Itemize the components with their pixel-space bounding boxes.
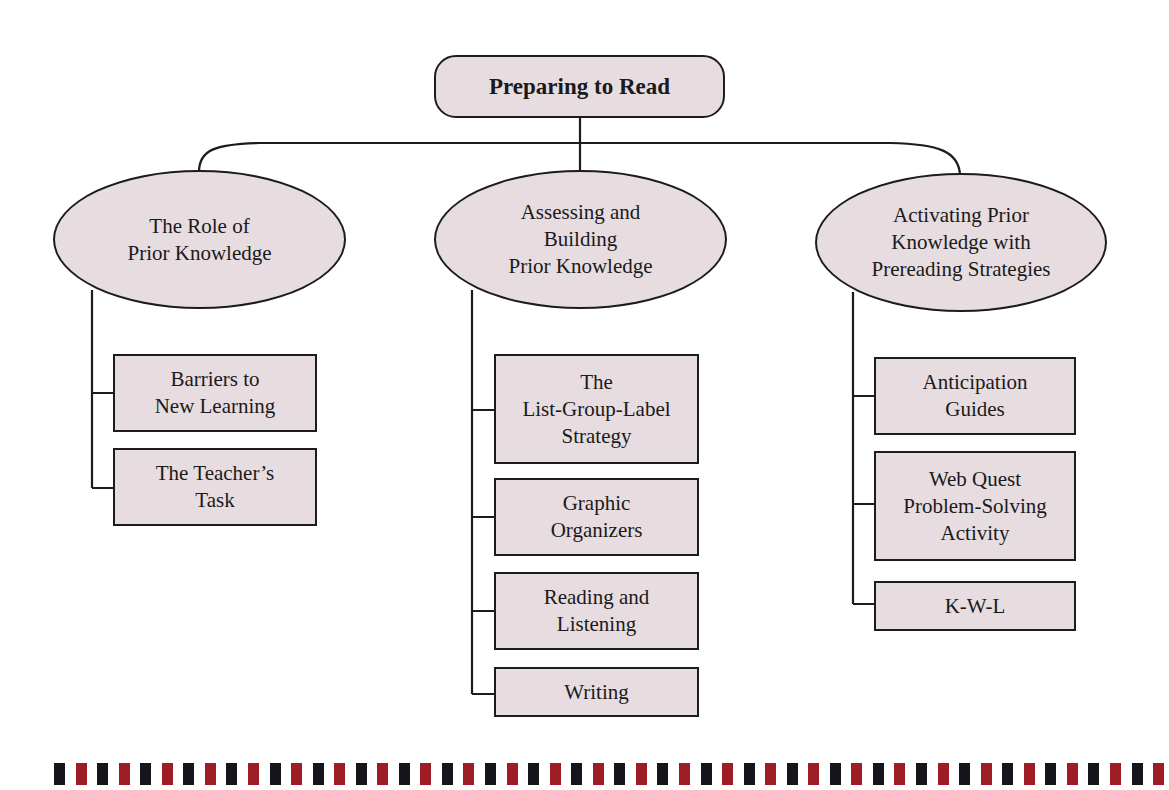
decorative-bar xyxy=(959,763,970,785)
decorative-bar xyxy=(938,763,949,785)
branch-node-assessing-building: Assessing and Building Prior Knowledge xyxy=(434,170,727,309)
decorative-bar xyxy=(226,763,237,785)
decorative-bar xyxy=(1067,763,1078,785)
leaf-barriers-to-new-learning: Barriers to New Learning xyxy=(113,354,317,432)
decorative-bar xyxy=(1088,763,1099,785)
decorative-bar xyxy=(657,763,668,785)
decorative-bar xyxy=(119,763,130,785)
decorative-bar xyxy=(873,763,884,785)
decorative-bar xyxy=(701,763,712,785)
leaf-label: Writing xyxy=(564,679,628,706)
decorative-bar xyxy=(744,763,755,785)
decorative-bar xyxy=(916,763,927,785)
leaf-reading-and-listening: Reading and Listening xyxy=(494,572,699,650)
decorative-bar xyxy=(571,763,582,785)
decorative-bar xyxy=(808,763,819,785)
decorative-bar xyxy=(270,763,281,785)
decorative-bar xyxy=(140,763,151,785)
leaf-label: K-W-L xyxy=(945,593,1006,620)
decorative-bar xyxy=(593,763,604,785)
decorative-bar xyxy=(377,763,388,785)
branch-label: The Role of Prior Knowledge xyxy=(127,213,271,267)
decorative-bar xyxy=(420,763,431,785)
decorative-bar xyxy=(356,763,367,785)
decorative-bar xyxy=(981,763,992,785)
decorative-bar xyxy=(1024,763,1035,785)
root-label: Preparing to Read xyxy=(489,74,670,100)
decorative-bar xyxy=(162,763,173,785)
leaf-web-quest: Web Quest Problem-Solving Activity xyxy=(874,451,1076,561)
branch-label: Assessing and Building Prior Knowledge xyxy=(508,199,652,280)
decorative-bar xyxy=(205,763,216,785)
decorative-bar xyxy=(1110,763,1121,785)
decorative-bar xyxy=(851,763,862,785)
decorative-bar xyxy=(1132,763,1143,785)
decorative-bar xyxy=(97,763,108,785)
decorative-bar xyxy=(183,763,194,785)
decorative-bar xyxy=(830,763,841,785)
decorative-bar xyxy=(679,763,690,785)
leaf-kwl: K-W-L xyxy=(874,581,1076,631)
decorative-bar xyxy=(894,763,905,785)
decorative-bar xyxy=(765,763,776,785)
decorative-bar xyxy=(550,763,561,785)
leaf-anticipation-guides: Anticipation Guides xyxy=(874,357,1076,435)
leaf-label: Web Quest Problem-Solving Activity xyxy=(903,466,1047,547)
decorative-bar xyxy=(248,763,259,785)
decorative-bar xyxy=(1045,763,1056,785)
decorative-bar xyxy=(1002,763,1013,785)
leaf-label: Reading and Listening xyxy=(544,584,650,638)
decorative-bar xyxy=(1153,763,1164,785)
leaf-label: Anticipation Guides xyxy=(923,369,1028,423)
decorative-bar xyxy=(334,763,345,785)
decorative-bar xyxy=(76,763,87,785)
decorative-bar xyxy=(787,763,798,785)
decorative-bar xyxy=(291,763,302,785)
decorative-bar xyxy=(722,763,733,785)
branch-node-activating-prior-knowledge: Activating Prior Knowledge with Prereadi… xyxy=(815,173,1107,312)
leaf-label: The Teacher’s Task xyxy=(156,460,274,514)
leaf-label: The List-Group-Label Strategy xyxy=(522,369,670,450)
root-node-preparing-to-read: Preparing to Read xyxy=(434,55,725,118)
decorative-bar xyxy=(614,763,625,785)
decorative-bar xyxy=(442,763,453,785)
decorative-bar xyxy=(485,763,496,785)
decorative-bar xyxy=(463,763,474,785)
leaf-label: Graphic Organizers xyxy=(551,490,643,544)
decorative-bar xyxy=(636,763,647,785)
branch-label: Activating Prior Knowledge with Prereadi… xyxy=(871,202,1050,283)
branch-node-role-of-prior-knowledge: The Role of Prior Knowledge xyxy=(53,170,346,309)
decorative-bar xyxy=(399,763,410,785)
leaf-writing: Writing xyxy=(494,667,699,717)
decorative-bar xyxy=(528,763,539,785)
leaf-teachers-task: The Teacher’s Task xyxy=(113,448,317,526)
decorative-bar xyxy=(54,763,65,785)
decorative-bar xyxy=(313,763,324,785)
leaf-list-group-label: The List-Group-Label Strategy xyxy=(494,354,699,464)
leaf-graphic-organizers: Graphic Organizers xyxy=(494,478,699,556)
decorative-bar xyxy=(507,763,518,785)
leaf-label: Barriers to New Learning xyxy=(155,366,276,420)
